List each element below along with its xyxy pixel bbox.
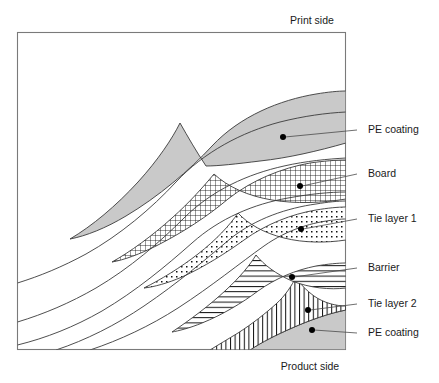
label-pe-coating-top: PE coating (368, 123, 419, 135)
dot-pe-coating-bottom (309, 327, 315, 333)
dot-board (297, 183, 303, 189)
label-tie-layer-1: Tie layer 1 (368, 212, 417, 224)
dot-barrier (289, 274, 295, 280)
label-barrier: Barrier (368, 261, 400, 273)
dot-tie-layer-2 (305, 307, 311, 313)
dot-pe-coating-top (280, 134, 286, 140)
dot-tie-layer-1 (298, 226, 304, 232)
label-pe-coating-bottom: PE coating (368, 326, 419, 338)
label-tie-layer-2: Tie layer 2 (368, 297, 417, 309)
label-product-side: Product side (281, 360, 340, 372)
layer-structure-diagram: Print side Product side PE coating Board… (0, 0, 439, 383)
label-print-side: Print side (290, 14, 334, 26)
label-board: Board (368, 167, 396, 179)
